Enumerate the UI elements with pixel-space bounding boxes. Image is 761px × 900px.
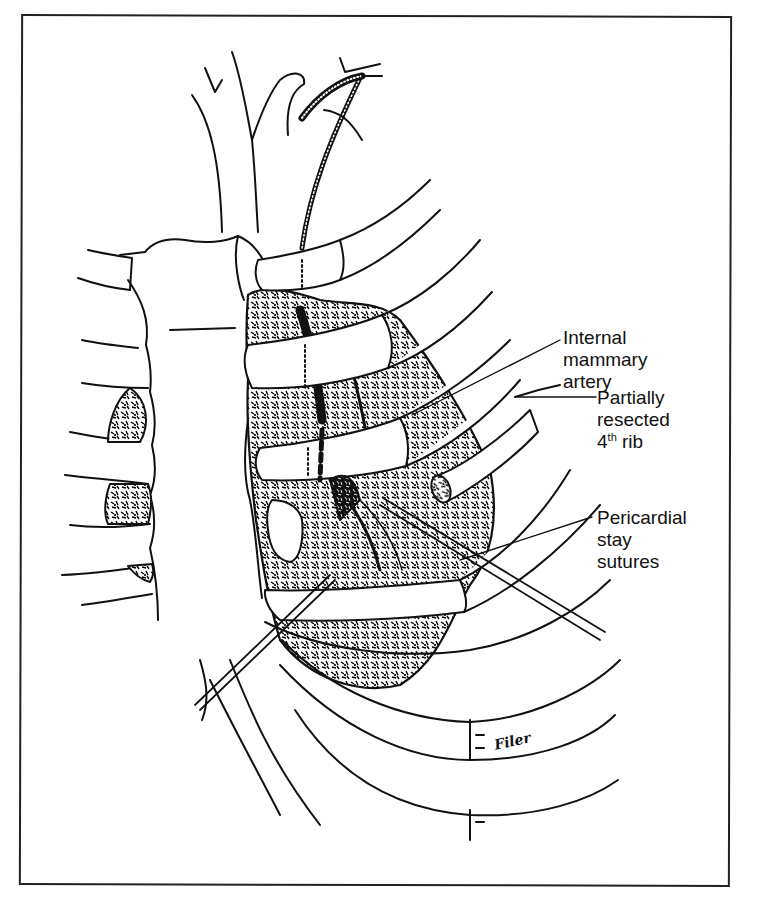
left-intercostal-space-1: [108, 388, 146, 442]
label-pericardial-stay-sutures: Pericardial stay sutures: [597, 507, 687, 573]
left-intercostal-space-3: [128, 564, 153, 582]
label-partially-resected-rib: Partially resected 4th rib: [597, 387, 670, 453]
rib-number-line: 4th rib: [597, 431, 670, 453]
label-internal-mammary-artery: Internal mammary artery: [563, 327, 647, 393]
internal-mammary-artery-graft: [302, 58, 382, 248]
great-vessels: [192, 52, 304, 232]
left-intercostal-space-2: [105, 484, 151, 524]
